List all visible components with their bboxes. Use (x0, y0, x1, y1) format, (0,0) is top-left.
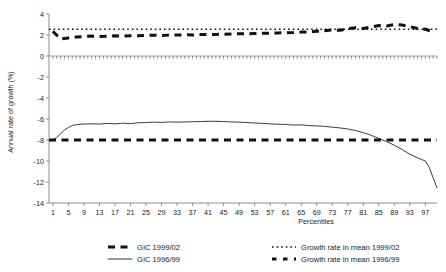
legend-label: Growth rate in mean 1999/02 (301, 243, 399, 252)
y-tick-label: -2 (38, 73, 44, 82)
x-tick-label: 21 (126, 208, 134, 217)
zero-reference-line (49, 56, 437, 59)
x-tick-label: 45 (220, 208, 228, 217)
chart-container: 420-2-4-6-8-10-12-14 1591317212529333741… (0, 0, 446, 272)
x-tick-label: 53 (251, 208, 259, 217)
x-tick-label: 81 (359, 208, 367, 217)
y-tick-label: 0 (40, 52, 44, 61)
y-tick-label: -4 (38, 94, 44, 103)
y-tick-label: -10 (34, 157, 44, 166)
x-tick-label: 69 (313, 208, 321, 217)
x-tick-label: 33 (173, 208, 181, 217)
x-tick-label: 85 (375, 208, 383, 217)
x-tick-label: 57 (266, 208, 274, 217)
x-tick-label: 77 (344, 208, 352, 217)
y-tick-label: -12 (34, 178, 44, 187)
x-tick-label: 65 (297, 208, 305, 217)
x-tick-label: 17 (111, 208, 119, 217)
legend-label: GIC 1996/99 (137, 255, 180, 264)
legend-label: Growth rate in mean 1996/99 (301, 255, 399, 264)
x-tick-label: 93 (406, 208, 414, 217)
x-tick-label: 49 (235, 208, 243, 217)
x-tick-label: 25 (142, 208, 150, 217)
x-tick-label: 5 (66, 208, 70, 217)
chart-background (0, 0, 446, 272)
y-tick-label: 4 (40, 10, 44, 19)
x-tick-label: 37 (189, 208, 197, 217)
y-tick-label: -8 (38, 136, 44, 145)
growth-incidence-curve-chart: 420-2-4-6-8-10-12-14 1591317212529333741… (0, 0, 446, 272)
x-tick-label: 29 (158, 208, 166, 217)
y-tick-label: -14 (34, 199, 44, 208)
x-tick-label: 41 (204, 208, 212, 217)
x-tick-label: 61 (282, 208, 290, 217)
y-tick-label: 2 (40, 31, 44, 40)
x-tick-label: 9 (82, 208, 86, 217)
x-tick-label: 1 (51, 208, 55, 217)
y-tick-label: -6 (38, 115, 44, 124)
x-axis-title: Percentiles (298, 217, 334, 226)
x-tick-label: 73 (328, 208, 336, 217)
y-axis-title: Annual rate of growth (%) (6, 71, 15, 153)
x-tick-label: 89 (390, 208, 398, 217)
x-tick-label: 97 (421, 208, 429, 217)
legend-label: GIC 1999/02 (137, 243, 180, 252)
x-tick-label: 13 (95, 208, 103, 217)
